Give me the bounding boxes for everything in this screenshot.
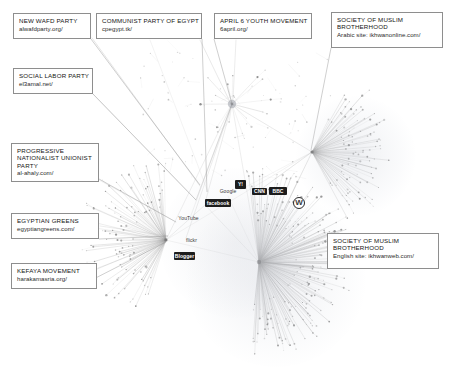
callout-org-name: COMMUNIST PARTY OF EGYPT [102, 17, 196, 24]
callout-org-name: EGYPTIAN GREENS [17, 217, 93, 224]
cnn-logo[interactable]: CNN [252, 188, 267, 195]
callout-communist-party-of-egypt[interactable]: COMMUNIST PARTY OF EGYPTcpegypt.tk/ [96, 13, 202, 39]
bbc-logo[interactable]: BBC [269, 187, 287, 195]
yahoo-logo[interactable]: Y! [235, 180, 246, 189]
callout-social-labor-party[interactable]: SOCIAL LABOR PARTYel3amal.net/ [13, 68, 93, 94]
background-halo-right [296, 96, 416, 216]
youtube-logo[interactable]: YouTube [180, 214, 197, 223]
callout-society-of-muslim-brotherhood-arabic[interactable]: SOCIETY OF MUSLIM BROTHERHOODArabic site… [331, 12, 443, 48]
callout-org-name: NEW WAFD PARTY [19, 17, 85, 24]
flickr-logo[interactable]: flickr [182, 236, 201, 244]
background-halo-bottom [186, 192, 366, 367]
facebook-logo[interactable]: facebook [205, 199, 231, 207]
callout-org-name: SOCIETY OF MUSLIM BROTHERHOOD [337, 16, 437, 31]
blogger-logo[interactable]: Blogger [174, 252, 195, 260]
callout-url: 6april.org/ [220, 25, 306, 32]
callout-url: harakamasria.org/ [17, 275, 91, 282]
callout-society-of-muslim-brotherhood-english[interactable]: SOCIETY OF MUSLIM BROTHERHOODEnglish sit… [327, 233, 439, 269]
callout-org-name: APRIL 6 YOUTH MOVEMENT [220, 17, 306, 24]
callout-progressive-nationalist-unionist-party[interactable]: PROGRESSIVE NATIONALIST UNIONIST PARTYal… [11, 143, 99, 182]
callout-org-name: KEFAYA MOVEMENT [17, 267, 91, 274]
callout-new-wafd-party[interactable]: NEW WAFD PARTYalwafdparty.org/ [13, 13, 91, 39]
callout-url: el3amal.net/ [19, 80, 87, 87]
callout-april-6-youth-movement[interactable]: APRIL 6 YOUTH MOVEMENT6april.org/ [214, 13, 312, 39]
callout-url: Arabic site: ikhwanonline.com/ [337, 31, 437, 38]
callout-url: egyptiangreens.com/ [17, 225, 93, 232]
callout-url: English site: ikhwanweb.com/ [333, 252, 433, 259]
callout-org-name: SOCIETY OF MUSLIM BROTHERHOOD [333, 237, 433, 252]
callout-url: alwafdparty.org/ [19, 25, 85, 32]
callout-url: cpegypt.tk/ [102, 25, 196, 32]
callout-org-name: PROGRESSIVE NATIONALIST UNIONIST PARTY [17, 147, 93, 169]
callout-org-name: SOCIAL LABOR PARTY [19, 72, 87, 79]
wordpress-logo[interactable]: W [293, 197, 305, 209]
callout-egyptian-greens[interactable]: EGYPTIAN GREENSegyptiangreens.com/ [11, 213, 99, 239]
callout-kefaya-movement[interactable]: KEFAYA MOVEMENTharakamasria.org/ [11, 263, 97, 289]
callout-url: al-ahaly.com/ [17, 169, 93, 176]
